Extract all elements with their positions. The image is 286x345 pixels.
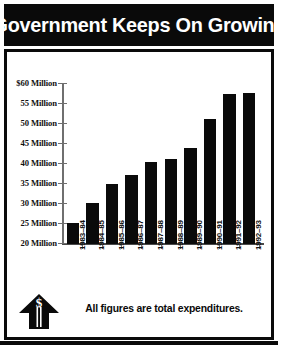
- chart-frame: $60 Million55 Million50 Million45 Millio…: [4, 49, 274, 340]
- y-axis-tick-label: 55 Million: [21, 98, 57, 108]
- y-axis-tick: [58, 183, 67, 184]
- y-axis-tick-label: 40 Million: [21, 158, 57, 168]
- x-axis-tick-label: 1992–93: [254, 220, 263, 250]
- x-axis-tick-label: 1986–87: [136, 220, 145, 250]
- y-axis-tick: [58, 143, 67, 144]
- dollar-up-arrow-icon: $: [17, 293, 61, 335]
- page-title: Government Keeps On Growing: [0, 15, 286, 36]
- chart-footer: $ All figures are total expenditures.: [7, 293, 271, 337]
- y-axis-tick-label: 25 Million: [21, 218, 57, 228]
- y-axis-tick: [58, 243, 67, 244]
- chart-caption: All figures are total expenditures.: [65, 303, 263, 314]
- x-axis-tick-label: 1985–86: [117, 220, 126, 250]
- x-axis-tick-label: 1984–85: [97, 220, 106, 250]
- x-axis-tick-label: 1983–84: [78, 220, 87, 250]
- y-axis-tick-label: 45 Million: [21, 138, 57, 148]
- x-axis-tick-label: 1991–92: [234, 220, 243, 250]
- bar-series: [62, 52, 264, 244]
- y-axis-tick-label: 20 Million: [21, 238, 57, 248]
- x-axis-tick-label: 1987–88: [156, 220, 165, 250]
- y-axis-tick-label: 50 Million: [21, 118, 57, 128]
- y-axis-tick: [58, 223, 67, 224]
- y-axis-tick-label: 30 Million: [21, 198, 57, 208]
- y-axis-tick: [58, 103, 67, 104]
- y-axis-tick-label: $60 Million: [16, 78, 57, 88]
- y-axis-tick: [58, 83, 67, 84]
- x-axis-tick-label: 1989–90: [195, 220, 204, 250]
- y-axis-tick: [58, 203, 67, 204]
- y-axis-tick-label: 35 Million: [21, 178, 57, 188]
- x-axis-tick-label: 1988–89: [176, 220, 185, 250]
- svg-text:$: $: [36, 295, 43, 310]
- y-axis-tick: [58, 163, 67, 164]
- y-axis-tick: [58, 123, 67, 124]
- bottom-rule: [0, 341, 278, 345]
- title-banner: Government Keeps On Growing: [4, 4, 274, 46]
- x-axis-tick-label: 1990–91: [215, 220, 224, 250]
